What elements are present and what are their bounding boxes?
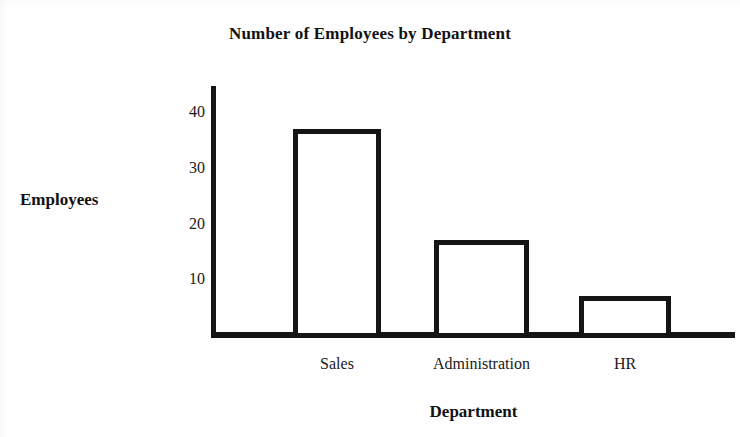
bar [434,240,529,338]
bar [579,296,671,338]
y-axis-line [211,86,216,338]
x-axis-title: Department [212,402,735,422]
x-axis-category-label: HR [539,355,711,373]
y-axis-tick-label: 30 [165,160,205,176]
bar [293,129,381,338]
bar-chart-figure: Number of Employees by Department Employ… [0,0,740,437]
y-axis-tick-label: 40 [165,104,205,120]
y-axis-tick-label: 10 [165,271,205,287]
plot-area: 10203040 SalesAdministrationHR [0,0,740,437]
y-axis-tick-labels: 10203040 [160,0,205,437]
y-axis-tick-label: 20 [165,216,205,232]
